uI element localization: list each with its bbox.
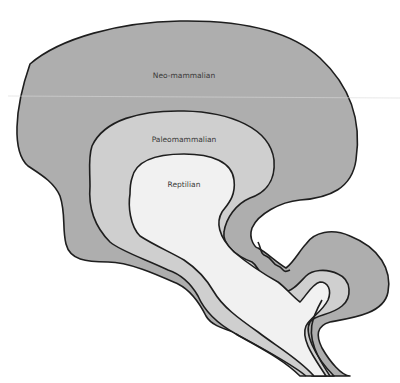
label-reptilian: Reptilian <box>168 180 201 189</box>
label-paleomammalian: Paleomammalian <box>152 135 217 144</box>
triune-brain-diagram: Neo-mammalian Paleomammalian Reptilian <box>0 0 400 383</box>
label-neo-mammalian: Neo-mammalian <box>153 71 216 80</box>
